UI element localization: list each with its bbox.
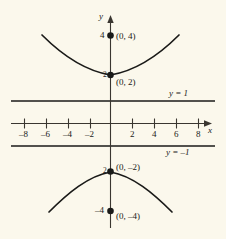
y-axis-label: y <box>99 12 103 21</box>
line-y-equals-negative-1-label: y = –1 <box>166 148 190 157</box>
y-tick-label-negative-2: 2 <box>103 167 107 175</box>
x-tick-label-negative-2: –2 <box>85 130 94 139</box>
x-tick-label-6: 6 <box>174 130 179 139</box>
x-tick-label-negative-6: –6 <box>41 130 50 139</box>
x-axis-label: x <box>208 126 212 135</box>
x-tick-label-negative-8: –8 <box>19 130 28 139</box>
point-0-4-label: (0, 4) <box>116 32 136 41</box>
x-tick-label-2: 2 <box>130 130 135 139</box>
x-tick-label-negative-4: –4 <box>63 130 72 139</box>
point-0-negative-4-dot <box>107 208 114 215</box>
point-0-negative-2-dot <box>107 168 114 175</box>
point-0-2-dot <box>107 72 114 79</box>
math-figure: y x 4 2 2 –4 –8 –6 –4 –2 2 4 6 8 (0, 4) … <box>0 0 226 239</box>
point-0-negative-4-label: (0, –4) <box>116 212 140 221</box>
y-tick-label-2: 2 <box>103 71 107 79</box>
point-0-4-dot <box>107 32 114 39</box>
x-tick-label-8: 8 <box>196 130 201 139</box>
line-y-equals-1-label: y = 1 <box>169 89 188 98</box>
graph-canvas <box>0 0 226 239</box>
point-0-negative-2-label: (0, –2) <box>116 163 140 172</box>
y-tick-label-negative-4: –4 <box>95 206 104 215</box>
point-0-2-label: (0, 2) <box>116 78 136 87</box>
y-axis-arrow <box>107 15 113 23</box>
x-tick-label-4: 4 <box>152 130 157 139</box>
y-tick-label-4: 4 <box>100 31 105 40</box>
